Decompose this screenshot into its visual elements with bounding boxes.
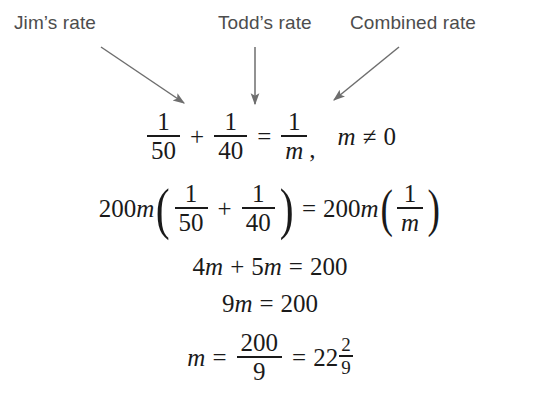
mixed-number-fraction-2-over-9: 2 9 [339,335,353,376]
callout-label-jim: Jim’s rate [14,12,96,34]
fraction-1-over-40: 1 40 [214,109,247,163]
variable-m: m [205,254,223,279]
equation-line-4: 9 m = 200 [0,284,540,322]
fraction-denominator: 40 [214,137,247,163]
fraction-numerator: 1 [248,181,269,207]
fraction-1-over-m: 1 m [281,109,307,163]
fraction-numerator: 1 [220,109,241,135]
equation-line-1: 1 50 + 1 40 = 1 m , m ≠ 0 [0,104,540,168]
equation-line-5: m = 200 9 = 22 2 9 [0,322,540,392]
comma: , [309,137,315,162]
variable-m: m [361,196,379,221]
coefficient-5: 5 [251,254,264,279]
fraction-denominator: m [397,209,423,235]
equals-operator: = [302,196,316,221]
paren-close: ) [279,191,293,227]
coefficient-4: 4 [193,254,206,279]
plus-operator: + [190,124,204,149]
variable-m: m [338,124,356,149]
callout-label-todd: Todd’s rate [218,12,312,34]
fraction-numerator: 200 [237,330,283,356]
result-200: 200 [310,254,348,279]
fraction-1-over-m: 1 m [397,181,423,235]
equals-operator: = [212,345,226,370]
fraction-1-over-50: 1 50 [175,181,208,235]
plus-operator: + [218,196,232,221]
paren-open: ( [156,191,170,227]
fraction-numerator: 1 [284,109,305,135]
paren-open: ( [380,193,392,225]
result-200: 200 [281,291,319,316]
fraction-numerator: 2 [339,335,353,355]
algebra-figure: Jim’s rate Todd’s rate Combined rate 1 5… [0,0,540,411]
arrow-jim [101,47,184,103]
callout-label-combined: Combined rate [350,12,476,34]
coefficient-200-left: 200 [99,196,137,221]
variable-m: m [187,345,205,370]
plus-operator: + [230,254,244,279]
equals-operator: = [292,345,306,370]
coefficient-200-right: 200 [323,196,361,221]
fraction-denominator: 9 [339,357,353,377]
variable-m: m [136,196,154,221]
equation-list: 1 50 + 1 40 = 1 m , m ≠ 0 200 [0,104,540,392]
value-zero: 0 [383,124,396,149]
equals-operator: = [259,291,273,316]
equals-operator: = [257,124,271,149]
fraction-denominator: m [281,137,307,163]
paren-close: ) [427,193,439,225]
equation-line-3: 4 m + 5 m = 200 [0,248,540,284]
not-equal-operator: ≠ [363,124,377,149]
arrow-combined [334,47,399,100]
coefficient-9: 9 [222,291,235,316]
fraction-denominator: 40 [242,209,275,235]
mixed-number-integer-part: 22 [313,345,338,370]
fraction-denominator: 9 [249,358,270,384]
fraction-numerator: 1 [400,181,421,207]
variable-m: m [234,291,252,316]
fraction-denominator: 50 [175,209,208,235]
fraction-numerator: 1 [181,181,202,207]
fraction-1-over-40: 1 40 [242,181,275,235]
variable-m: m [264,254,282,279]
fraction-numerator: 1 [153,109,174,135]
equation-line-2: 200 m ( 1 50 + 1 40 ) = 200 m ( 1 m [0,168,540,248]
fraction-200-over-9: 200 9 [237,330,283,384]
equals-operator: = [289,254,303,279]
fraction-1-over-50: 1 50 [147,109,180,163]
fraction-denominator: 50 [147,137,180,163]
